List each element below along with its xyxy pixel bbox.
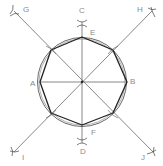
label-c: C (79, 6, 85, 15)
label-b: B (130, 77, 135, 86)
label-i: I (22, 153, 24, 162)
center-point (81, 81, 83, 83)
label-e: E (90, 28, 95, 37)
label-g: G (23, 5, 29, 14)
label-j: J (141, 153, 145, 162)
label-h: H (137, 5, 143, 14)
octagon-construction-diagram: G C H E A B F D I J (0, 0, 163, 166)
compass-mark-j (147, 147, 156, 156)
label-d: D (80, 147, 86, 156)
label-f: F (91, 128, 96, 137)
label-a: A (30, 79, 36, 88)
compass-mark-h (148, 7, 156, 17)
